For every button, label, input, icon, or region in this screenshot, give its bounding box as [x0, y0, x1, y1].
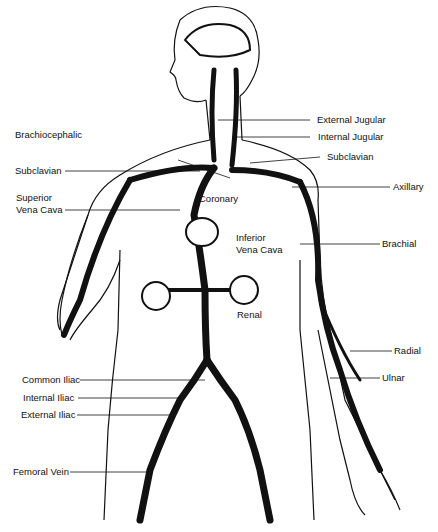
label-coronary: Coronary: [199, 193, 238, 204]
label-ulnar: Ulnar: [382, 372, 405, 383]
label-axillary: Axillary: [393, 181, 424, 192]
label-superior-vena-cava-line1: Superior: [16, 192, 52, 203]
label-inferior-vena-cava-line2: Vena Cava: [236, 244, 282, 255]
label-radial: Radial: [394, 345, 421, 356]
label-inferior-vena-cava-line1: Inferior: [236, 232, 266, 243]
label-renal: Renal: [237, 309, 262, 320]
label-common-iliac: Common Iliac: [22, 374, 80, 385]
label-external-jugular: External Jugular: [317, 114, 386, 125]
label-brachiocephalic: Brachiocephalic: [15, 129, 82, 140]
label-femoral-vein: Femoral Vein: [13, 466, 69, 477]
label-external-iliac: External Iliac: [21, 409, 75, 420]
label-internal-jugular: Internal Jugular: [318, 131, 383, 142]
body-outline-illustration: [0, 0, 438, 532]
label-internal-iliac: Internal Iliac: [23, 392, 74, 403]
label-brachial: Brachial: [382, 238, 416, 249]
label-superior-vena-cava-line2: Vena Cava: [16, 204, 62, 215]
venous-system-diagram: External Jugular Internal Jugular Brachi…: [0, 0, 438, 532]
label-subclavian-left: Subclavian: [15, 165, 61, 176]
label-subclavian-right: Subclavian: [327, 151, 373, 162]
